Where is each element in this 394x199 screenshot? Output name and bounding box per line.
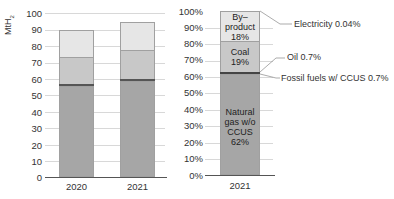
annotation-ccus: Fossil fuels w/ CCUS 0.7% <box>281 73 389 83</box>
annotation-electricity: Electricity 0.04% <box>294 19 361 29</box>
leader-lines <box>0 0 394 199</box>
annotation-oil: Oil 0.7% <box>287 52 321 62</box>
chart-root: MtH2 100 90 80 70 60 50 40 30 20 10 0 20… <box>0 0 394 199</box>
